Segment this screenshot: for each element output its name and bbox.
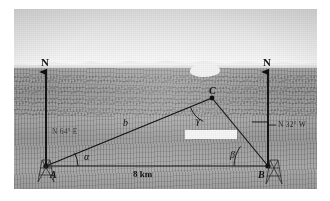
angle-label-beta: β xyxy=(230,150,235,160)
bearing-label-from-b: N 32° W xyxy=(278,121,306,129)
angle-label-gamma: γ xyxy=(196,116,200,126)
bearing-label-from-a: N 64° E xyxy=(52,128,78,136)
figure-container: N N A B C b α β γ 8 km N 64° E N 32° W xyxy=(0,0,330,201)
bearing-bracket-right xyxy=(252,122,268,136)
angle-label-alpha: α xyxy=(84,152,89,162)
angle-arc-alpha xyxy=(75,153,78,166)
point-label-b: B xyxy=(258,170,265,180)
side-label-b: b xyxy=(123,118,128,128)
station-dot-c xyxy=(210,96,215,101)
baseline-distance-label: 8 km xyxy=(133,170,152,179)
point-label-a: A xyxy=(50,170,57,180)
north-label-left: N xyxy=(41,57,49,68)
north-label-right: N xyxy=(263,57,271,68)
point-label-c: C xyxy=(209,86,216,96)
segment-bc xyxy=(212,98,268,166)
